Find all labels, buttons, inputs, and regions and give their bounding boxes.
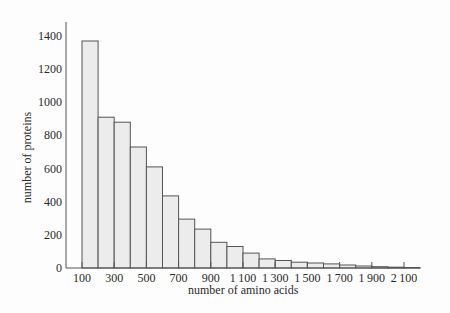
y-tick-label: 1000 xyxy=(38,95,62,109)
histogram-bar xyxy=(259,259,275,268)
histogram-bar xyxy=(324,264,340,268)
x-tick-label: 700 xyxy=(170,271,188,285)
histogram-bar xyxy=(307,263,323,268)
y-tick-labels: 0200400600800100012001400 xyxy=(38,29,62,275)
histogram-bar xyxy=(243,253,259,268)
histogram-bar xyxy=(114,122,130,268)
y-tick-label: 200 xyxy=(44,228,62,242)
histogram-chart: 0200400600800100012001400 10030050070090… xyxy=(0,0,450,313)
x-tick-label: 300 xyxy=(105,271,123,285)
y-tick-label: 400 xyxy=(44,195,62,209)
histogram-bar xyxy=(227,247,243,269)
x-tick-label: 500 xyxy=(137,271,155,285)
histogram-bar xyxy=(130,147,146,268)
x-tick-label: 1 900 xyxy=(359,271,385,285)
y-axis-title: number of proteins xyxy=(20,103,35,213)
x-tick-label: 1 700 xyxy=(326,271,352,285)
y-tick-label: 1200 xyxy=(38,62,62,76)
histogram-bar xyxy=(82,41,98,268)
y-tick-label: 0 xyxy=(56,261,62,275)
histogram-bar xyxy=(275,261,291,269)
histogram-bar xyxy=(146,167,162,268)
y-tick-label: 800 xyxy=(44,128,62,142)
x-tick-label: 100 xyxy=(73,271,91,285)
bars-group xyxy=(82,41,420,268)
histogram-bar xyxy=(98,117,114,268)
histogram-bar xyxy=(179,219,195,268)
histogram-bar xyxy=(195,229,211,268)
histogram-bar xyxy=(291,262,307,268)
x-axis-title: number of amino acids xyxy=(188,283,298,298)
histogram-bar xyxy=(163,196,179,268)
y-tick-label: 1400 xyxy=(38,29,62,43)
histogram-bar xyxy=(211,242,227,268)
y-tick-label: 600 xyxy=(44,162,62,176)
x-tick-label: 2 100 xyxy=(391,271,417,285)
